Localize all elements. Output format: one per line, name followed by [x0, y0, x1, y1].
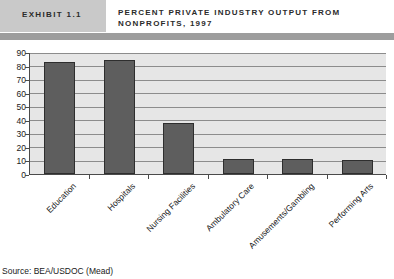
bar-nursing-facilities	[163, 123, 194, 175]
chart-plot-area	[29, 53, 386, 175]
bar-education	[44, 62, 75, 175]
exhibit-header: EXHIBIT 1.1 PERCENT PRIVATE INDUSTRY OUT…	[0, 0, 394, 33]
y-axis-tick-mark	[25, 175, 29, 176]
gridline	[30, 66, 386, 67]
exhibit-number-block: EXHIBIT 1.1	[0, 0, 106, 32]
x-axis-tick-mark	[386, 175, 387, 179]
gridline	[30, 107, 386, 108]
x-axis-label: Hospitals	[106, 181, 138, 213]
x-axis-label: Ambulatory Care	[204, 181, 256, 233]
bar-performing-arts	[342, 160, 373, 174]
gridline	[30, 53, 386, 54]
x-axis-tick-mark	[89, 175, 90, 179]
y-axis-tick-label: 20	[4, 143, 26, 153]
y-axis-tick-mark	[25, 94, 29, 95]
x-axis-label: Education	[44, 181, 78, 215]
bar-hospitals	[104, 60, 135, 174]
x-axis-tick-mark	[327, 175, 328, 179]
y-axis-tick-label: 40	[4, 116, 26, 126]
bar-amusements-gambling	[282, 159, 313, 174]
y-axis-tick-mark	[25, 121, 29, 122]
y-axis-tick-mark	[25, 80, 29, 81]
y-axis-tick-mark	[25, 67, 29, 68]
y-axis-tick-mark	[25, 53, 29, 54]
y-axis-tick-mark	[25, 161, 29, 162]
y-axis-tick-label: 80	[4, 62, 26, 72]
y-axis-tick-mark	[25, 134, 29, 135]
exhibit-number-label: EXHIBIT 1.1	[22, 10, 82, 19]
x-axis-tick-mark	[148, 175, 149, 179]
y-axis-tick-label: 70	[4, 75, 26, 85]
source-note: Source: BEA/USDOC (Mead)	[2, 266, 113, 276]
gridline	[30, 134, 386, 135]
x-axis-tick-mark	[267, 175, 268, 179]
gridline	[30, 93, 386, 94]
y-axis-tick-mark	[25, 148, 29, 149]
y-axis-tick-label: 10	[4, 156, 26, 166]
gridline	[30, 147, 386, 148]
x-axis-label: Performing Arts	[327, 181, 375, 229]
bar-ambulatory-care	[223, 159, 254, 174]
y-axis-tick-label: 60	[4, 89, 26, 99]
header-divider	[0, 33, 394, 40]
y-axis-tick-mark	[25, 107, 29, 108]
gridline	[30, 120, 386, 121]
y-axis-tick-label: 50	[4, 102, 26, 112]
page-title: PERCENT PRIVATE INDUSTRY OUTPUT FROM NON…	[118, 7, 380, 29]
y-axis-tick-label: 90	[4, 48, 26, 58]
bar-chart: 0102030405060708090 EducationHospitalsNu…	[0, 48, 394, 238]
gridline	[30, 80, 386, 81]
y-axis-tick-label: 0	[4, 170, 26, 180]
x-axis-label: Amusements/Gambling	[246, 181, 316, 251]
x-axis-tick-mark	[208, 175, 209, 179]
y-axis-tick-label: 30	[4, 129, 26, 139]
x-axis-label: Nursing Facilities	[144, 181, 197, 234]
gridline	[30, 161, 386, 162]
